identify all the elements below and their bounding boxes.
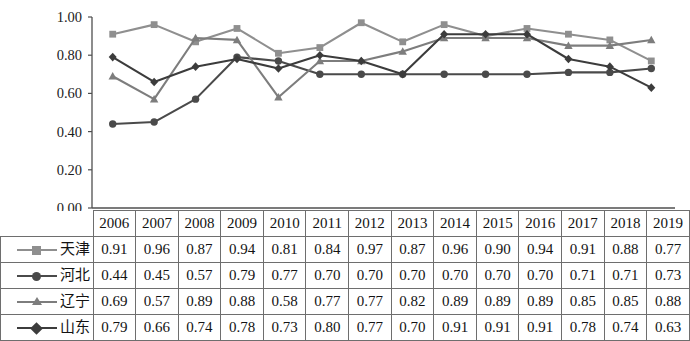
data-table: 2006200720082009201020112012201320142015…	[0, 210, 690, 341]
data-point-square	[441, 21, 448, 28]
cell-河北-2010: 0.77	[263, 263, 306, 289]
data-point-diamond	[606, 62, 614, 71]
data-point-circle	[440, 71, 447, 78]
year-header-2017: 2017	[562, 211, 605, 237]
y-tick-label: 0.60	[57, 85, 82, 101]
cell-河北-2016: 0.70	[519, 263, 562, 289]
legend-label: 河北	[60, 263, 90, 288]
data-point-square	[275, 50, 282, 57]
data-point-circle	[565, 69, 572, 76]
data-point-square	[648, 58, 655, 65]
data-point-diamond	[274, 64, 282, 73]
legend-row-4: 山东	[1, 315, 94, 341]
legend-key-icon	[17, 269, 57, 283]
data-point-circle	[482, 71, 489, 78]
cell-河北-2007: 0.45	[136, 263, 179, 289]
cell-河北-2009: 0.79	[221, 263, 264, 289]
legend-key-icon	[17, 243, 57, 257]
data-point-diamond	[192, 62, 200, 71]
series-1	[109, 19, 654, 64]
cell-天津-2012: 0.97	[349, 237, 392, 263]
data-point-triangle	[109, 72, 117, 80]
cell-辽宁-2007: 0.57	[136, 289, 179, 315]
cell-河北-2012: 0.70	[349, 263, 392, 289]
cell-山东-2017: 0.78	[562, 315, 605, 341]
year-header-2015: 2015	[476, 211, 519, 237]
cell-河北-2019: 0.73	[647, 263, 690, 289]
data-point-circle	[109, 120, 116, 127]
cell-辽宁-2016: 0.89	[519, 289, 562, 315]
data-point-diamond	[109, 53, 117, 62]
cell-山东-2016: 0.91	[519, 315, 562, 341]
cell-辽宁-2011: 0.77	[306, 289, 349, 315]
data-point-diamond	[316, 51, 324, 60]
y-tick-label: 0.20	[57, 162, 82, 178]
series-2	[109, 53, 655, 127]
cell-河北-2017: 0.71	[562, 263, 605, 289]
cell-天津-2014: 0.96	[434, 237, 477, 263]
table-row: 河北0.440.450.570.790.770.700.700.700.700.…	[1, 263, 690, 289]
cell-辽宁-2019: 0.88	[647, 289, 690, 315]
cell-山东-2010: 0.73	[263, 315, 306, 341]
y-axis-tick-labels: 0.000.200.400.600.801.00	[57, 9, 82, 212]
year-header-2012: 2012	[349, 211, 392, 237]
year-header-2018: 2018	[604, 211, 647, 237]
cell-河北-2006: 0.44	[93, 263, 136, 289]
cell-辽宁-2017: 0.85	[562, 289, 605, 315]
cell-天津-2010: 0.81	[263, 237, 306, 263]
cell-天津-2011: 0.84	[306, 237, 349, 263]
cell-河北-2013: 0.70	[391, 263, 434, 289]
year-header-2016: 2016	[519, 211, 562, 237]
y-tick-label: 1.00	[57, 9, 82, 25]
legend-row-2: 河北	[1, 263, 94, 289]
table-corner-cell	[1, 211, 94, 237]
data-point-square	[358, 19, 365, 26]
table-row: 天津0.910.960.870.940.810.840.970.870.960.…	[1, 237, 690, 263]
data-point-square	[234, 25, 241, 32]
cell-天津-2013: 0.87	[391, 237, 434, 263]
legend-key-icon	[17, 321, 57, 335]
cell-山东-2018: 0.74	[604, 315, 647, 341]
y-tick-label: 0.80	[57, 47, 82, 63]
cell-山东-2013: 0.70	[391, 315, 434, 341]
cell-山东-2015: 0.91	[476, 315, 519, 341]
legend-label: 山东	[60, 315, 90, 340]
data-point-circle	[523, 71, 530, 78]
data-point-square	[316, 44, 323, 51]
data-point-circle	[275, 57, 282, 64]
y-axis	[88, 17, 92, 208]
data-table-region: 2006200720082009201020112012201320142015…	[0, 210, 675, 341]
legend-key-icon	[17, 295, 57, 309]
year-header-2007: 2007	[136, 211, 179, 237]
cell-辽宁-2013: 0.82	[391, 289, 434, 315]
cell-辽宁-2014: 0.89	[434, 289, 477, 315]
cell-天津-2008: 0.87	[178, 237, 221, 263]
legend-row-1: 天津	[1, 237, 94, 263]
year-header-2019: 2019	[647, 211, 690, 237]
table-row: 辽宁0.690.570.890.880.580.770.770.820.890.…	[1, 289, 690, 315]
cell-天津-2015: 0.90	[476, 237, 519, 263]
cell-山东-2019: 0.63	[647, 315, 690, 341]
cell-山东-2007: 0.66	[136, 315, 179, 341]
cell-山东-2006: 0.79	[93, 315, 136, 341]
year-header-2011: 2011	[306, 211, 349, 237]
data-point-square	[565, 31, 572, 38]
year-header-2009: 2009	[221, 211, 264, 237]
cell-河北-2018: 0.71	[604, 263, 647, 289]
cell-天津-2016: 0.94	[519, 237, 562, 263]
data-point-square	[109, 31, 116, 38]
data-point-square	[399, 38, 406, 45]
cell-天津-2018: 0.88	[604, 237, 647, 263]
data-point-square	[151, 21, 158, 28]
y-tick-label: 0.40	[57, 124, 82, 140]
chart-canvas: 0.000.200.400.600.801.00	[0, 0, 675, 212]
legend-label: 天津	[60, 237, 90, 262]
cell-河北-2011: 0.70	[306, 263, 349, 289]
cell-山东-2011: 0.80	[306, 315, 349, 341]
cell-山东-2009: 0.78	[221, 315, 264, 341]
data-point-diamond	[150, 78, 158, 87]
series-lines	[109, 19, 656, 127]
cell-辽宁-2015: 0.89	[476, 289, 519, 315]
cell-山东-2014: 0.91	[434, 315, 477, 341]
